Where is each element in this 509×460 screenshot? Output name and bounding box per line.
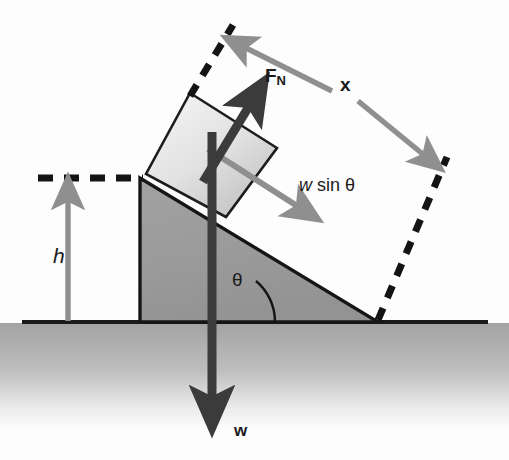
weight-label: w xyxy=(234,422,247,439)
ground-group xyxy=(0,322,509,433)
weight-component-label: w sin θ xyxy=(299,176,355,194)
slide-distance-label: x xyxy=(340,75,351,94)
normal-force-label: FN xyxy=(265,66,286,87)
height-label: h xyxy=(53,245,65,266)
ground-fill xyxy=(0,323,509,433)
normal-force-subscript: N xyxy=(277,73,286,88)
normal-force-symbol: F xyxy=(265,65,277,86)
dashed-incline-top-extension xyxy=(190,25,233,96)
dashed-incline-bottom-extension xyxy=(378,157,447,320)
incline-wedge-group xyxy=(140,178,378,322)
incline-angle-label: θ xyxy=(232,270,243,289)
incline-plane-diagram xyxy=(0,0,509,460)
weight-component-sine: sin θ xyxy=(312,175,355,195)
x-dimension-arrow-lower xyxy=(358,101,430,160)
physics-diagram-canvas: FN x w sin θ h θ w xyxy=(0,0,509,460)
incline-wedge xyxy=(140,178,378,322)
weight-component-symbol: w xyxy=(299,175,312,195)
